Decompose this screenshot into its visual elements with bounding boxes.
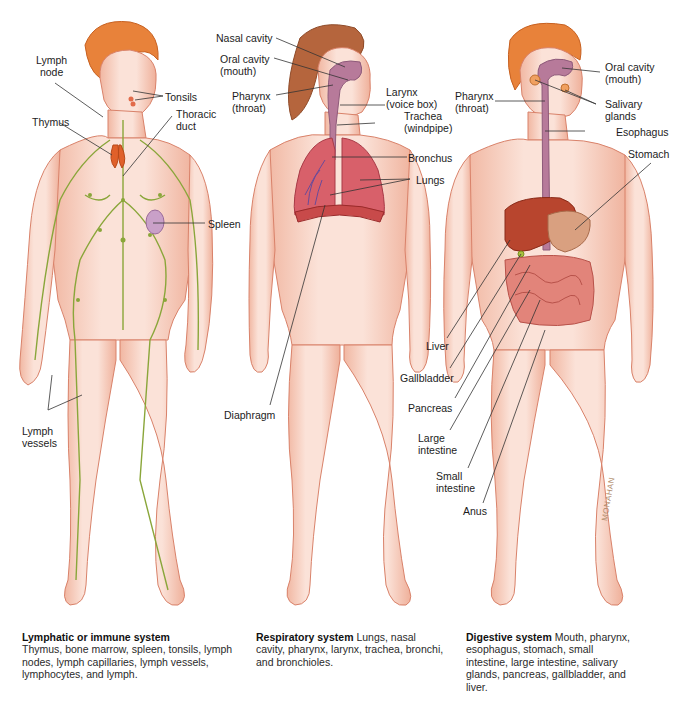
label-diaphragm: Diaphragm: [224, 409, 275, 421]
label-lymph-vessels: Lymph vessels: [22, 425, 57, 449]
label-anus: Anus: [463, 505, 487, 517]
label-spleen: Spleen: [208, 218, 241, 230]
label-lymph-node: Lymph node: [36, 54, 67, 78]
label-small-intestine: Small intestine: [436, 470, 475, 494]
label-pancreas: Pancreas: [408, 402, 452, 414]
label-large-intestine: Large intestine: [418, 432, 457, 456]
label-thoracic-duct: Thoracic duct: [176, 108, 216, 132]
label-tonsils: Tonsils: [165, 91, 197, 103]
label-pharynx: Pharynx (throat): [232, 90, 271, 114]
caption-lymphatic-body: Thymus, bone marrow, spleen, tonsils, ly…: [22, 643, 232, 680]
label-bronchus: Bronchus: [408, 152, 452, 164]
label-pharynx-digestive: Pharynx (throat): [455, 90, 494, 114]
body-systems-diagram: Lymph node Tonsils Thymus Thoracic duct …: [0, 0, 691, 703]
label-stomach: Stomach: [628, 148, 669, 160]
caption-respiratory-title: Respiratory system: [256, 631, 353, 643]
anatomy-illustration: [0, 0, 691, 703]
caption-digestive-title: Digestive system: [466, 631, 552, 643]
label-nasal-cavity: Nasal cavity: [216, 32, 273, 44]
label-oral-cavity-digestive: Oral cavity (mouth): [605, 61, 655, 85]
label-trachea: Trachea (windpipe): [404, 110, 452, 134]
label-salivary-glands: Salivary glands: [605, 98, 642, 122]
label-oral-cavity: Oral cavity (mouth): [220, 53, 270, 77]
label-liver: Liver: [426, 340, 449, 352]
label-lungs: Lungs: [416, 174, 445, 186]
label-larynx: Larynx (voice box): [386, 86, 437, 110]
label-gallbladder: Gallbladder: [400, 372, 454, 384]
label-esophagus: Esophagus: [616, 126, 669, 138]
caption-lymphatic-title: Lymphatic or immune system: [22, 631, 170, 643]
caption-lymphatic: Lymphatic or immune system Thymus, bone …: [22, 631, 242, 681]
caption-digestive: Digestive system Mouth, pharynx, esophag…: [466, 631, 636, 693]
label-thymus: Thymus: [32, 116, 69, 128]
caption-respiratory: Respiratory system Lungs, nasal cavity, …: [256, 631, 446, 668]
